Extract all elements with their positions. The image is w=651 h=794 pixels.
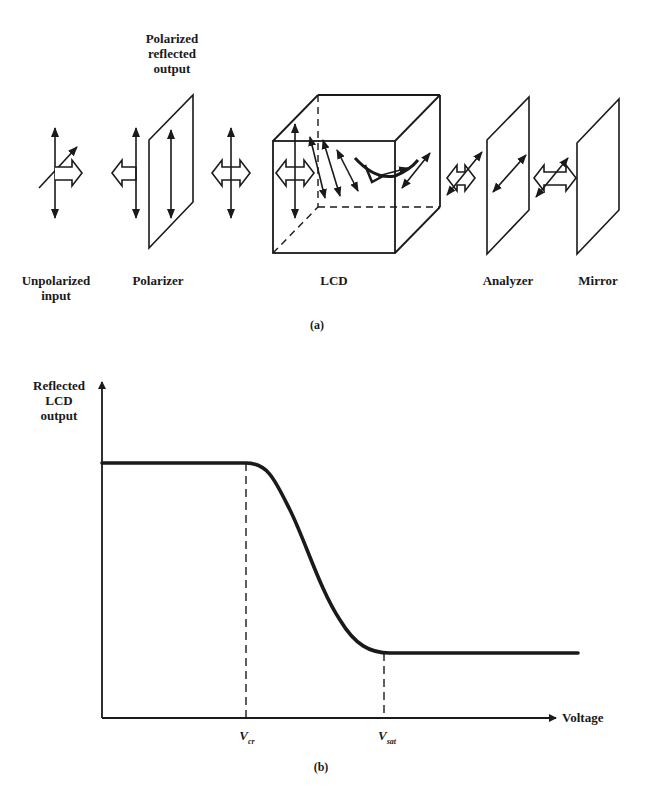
reflected-output-curve	[102, 463, 578, 653]
liquid-crystal-twist-icon	[310, 137, 430, 198]
lcd-output-beam-icon	[447, 152, 482, 195]
unpolarized-input-icon	[39, 128, 82, 218]
vcr-tick-label: Vcr	[232, 728, 262, 749]
tick-sub: sat	[387, 737, 396, 746]
polarizer-plate	[149, 95, 193, 248]
caption-a: (a)	[302, 318, 332, 333]
x-axis-label: Voltage	[562, 710, 632, 725]
polarizer-label: Polarizer	[118, 273, 198, 288]
y-axis-label: ReflectedLCDoutput	[24, 378, 94, 423]
lcd-label: LCD	[314, 273, 354, 288]
figure-canvas	[0, 0, 651, 794]
label-line: Polarized	[130, 31, 214, 46]
label-line: reflected	[130, 46, 214, 61]
tick-main: V	[239, 728, 248, 743]
tick-sub: cr	[248, 737, 255, 746]
reflected-beam-arrow-icon	[112, 128, 136, 218]
label-line: output	[130, 61, 214, 76]
vsat-tick-label: Vsat	[370, 728, 404, 749]
caption-b: (b)	[306, 760, 336, 775]
tick-main: V	[378, 728, 387, 743]
polarized-reflected-output-label: Polarized reflected output	[130, 31, 214, 76]
analyzer-label: Analyzer	[468, 273, 548, 288]
polarized-beam-icon	[212, 128, 250, 218]
mirror-plate	[577, 99, 619, 254]
label-line: input	[14, 288, 98, 303]
lcd-input-beam-icon	[276, 124, 314, 218]
unpolarized-input-label: Unpolarized input	[14, 273, 98, 303]
mirror-label: Mirror	[566, 273, 630, 288]
label-line: Unpolarized	[14, 273, 98, 288]
analyzer-plate	[487, 97, 529, 254]
analyzer-output-beam-icon	[534, 158, 576, 197]
transfer-curve-chart	[102, 382, 578, 718]
